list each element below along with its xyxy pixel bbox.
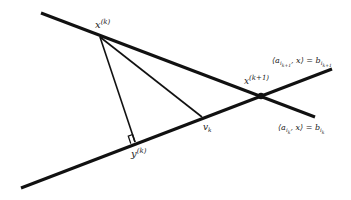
- right-angle-marker: [128, 135, 132, 144]
- right-angle-marker-2: [133, 135, 136, 143]
- label-xk: x(k): [95, 18, 111, 30]
- label-vk: vk: [203, 122, 212, 133]
- segment-xk-to-yk: [100, 37, 135, 142]
- hyperplane-top-line: [41, 13, 315, 117]
- intersection-point: [258, 93, 264, 99]
- diagram-canvas: x(k) x(k+1) y(k) vk ⟨aik+1, x⟩ = bik+1 ⟨…: [0, 0, 351, 200]
- label-hyperplane-bottom: ⟨aik, x⟩ = bik: [278, 123, 325, 135]
- label-xk1: x(k+1): [244, 74, 269, 86]
- label-yk: y(k): [130, 147, 147, 159]
- segment-xk-to-vk: [100, 37, 202, 117]
- label-hyperplane-top: ⟨aik+1, x⟩ = bik+1: [272, 56, 332, 68]
